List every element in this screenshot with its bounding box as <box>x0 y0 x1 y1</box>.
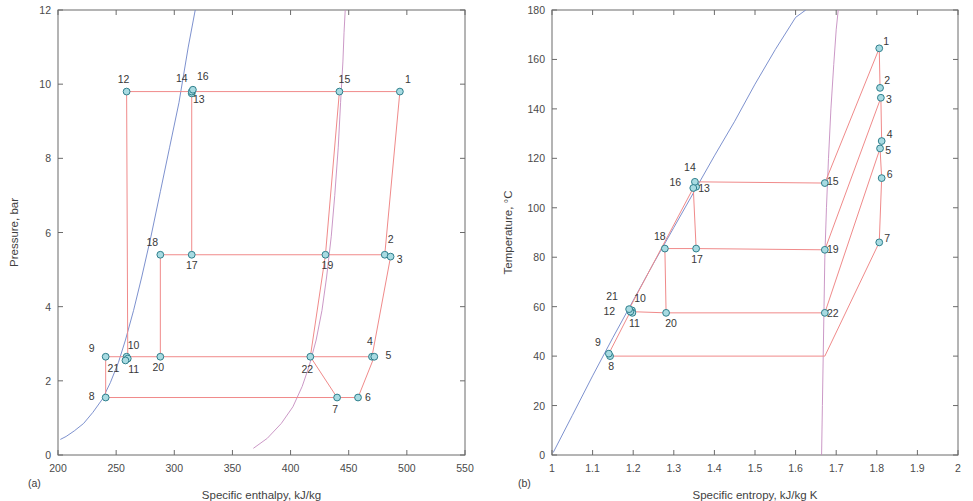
state-label-19: 19 <box>827 243 839 255</box>
series-riser-12-11 <box>127 92 128 359</box>
state-label-15: 15 <box>827 175 839 187</box>
y-tick-label: 8 <box>45 152 51 164</box>
state-point-20[interactable] <box>157 353 164 360</box>
state-point-7[interactable] <box>334 394 341 401</box>
series-riser-1-2 <box>879 48 880 88</box>
x-tick-label: 2 <box>955 462 961 474</box>
state-label-11: 11 <box>128 363 139 375</box>
series-cycle-generator-line <box>695 182 825 183</box>
state-label-22: 22 <box>827 307 839 319</box>
state-point-22[interactable] <box>307 353 314 360</box>
state-point-6[interactable] <box>878 175 885 182</box>
state-label-12: 12 <box>118 73 130 85</box>
state-point-9[interactable] <box>605 350 612 357</box>
series-riser-15-1 <box>825 48 879 183</box>
state-point-7[interactable] <box>876 239 883 246</box>
x-tick-label: 250 <box>107 462 125 474</box>
state-point-9[interactable] <box>102 353 109 360</box>
state-label-20: 20 <box>665 317 677 329</box>
state-label-8: 8 <box>608 360 614 372</box>
state-label-9: 9 <box>595 336 601 348</box>
series-riser-evap-7 <box>825 242 879 356</box>
panel-a-tag: (a) <box>28 477 41 489</box>
state-point-8[interactable] <box>102 394 109 401</box>
state-point-17[interactable] <box>188 251 195 258</box>
chart-panel-b: 11.11.21.31.41.51.61.71.81.9202040608010… <box>490 0 973 501</box>
x-tick-label: 400 <box>282 462 300 474</box>
y-axis-title: Temperature, °C <box>502 191 514 275</box>
x-tick-label: 1.8 <box>869 462 884 474</box>
state-label-11: 11 <box>629 317 640 329</box>
series-cycle-mid-line <box>665 249 825 250</box>
state-label-22: 22 <box>301 363 313 375</box>
y-tick-label: 4 <box>45 301 51 313</box>
state-label-17: 17 <box>691 253 703 265</box>
state-point-3[interactable] <box>387 253 394 260</box>
series-cycle-absorber-line <box>630 312 824 313</box>
state-point-3[interactable] <box>877 94 884 101</box>
y-tick-label: 140 <box>527 103 545 115</box>
y-tick-label: 20 <box>533 400 545 412</box>
plot-frame <box>552 10 958 455</box>
state-label-15: 15 <box>339 73 351 85</box>
series-riser-22-5 <box>825 148 880 312</box>
state-label-20: 20 <box>152 361 164 373</box>
x-tick-label: 200 <box>49 462 67 474</box>
y-tick-label: 120 <box>527 152 545 164</box>
series-group <box>553 10 881 455</box>
state-label-13: 13 <box>698 182 710 194</box>
state-label-14: 14 <box>684 161 696 173</box>
state-point-6[interactable] <box>355 394 362 401</box>
state-point-12[interactable] <box>123 88 130 95</box>
state-label-7: 7 <box>332 403 338 415</box>
y-tick-label: 0 <box>45 449 51 461</box>
y-tick-label: 40 <box>533 350 545 362</box>
x-tick-label: 1.2 <box>626 462 641 474</box>
state-point-19[interactable] <box>322 251 329 258</box>
state-label-21: 21 <box>606 290 618 302</box>
state-point-18[interactable] <box>157 251 164 258</box>
state-point-17[interactable] <box>693 245 700 252</box>
x-tick-label: 1 <box>549 462 555 474</box>
state-point-1[interactable] <box>396 88 403 95</box>
state-point-16[interactable] <box>189 86 196 93</box>
y-tick-label: 100 <box>527 202 545 214</box>
state-point-5[interactable] <box>371 353 378 360</box>
state-point-2[interactable] <box>877 84 884 91</box>
y-tick-label: 6 <box>45 227 51 239</box>
x-tick-label: 1.1 <box>585 462 600 474</box>
state-point-5[interactable] <box>877 145 884 152</box>
series-riser-19-3 <box>825 98 881 250</box>
y-tick-label: 60 <box>533 301 545 313</box>
state-point-16[interactable] <box>690 185 697 192</box>
series-riser-6-7 <box>879 178 881 242</box>
state-point-15[interactable] <box>336 88 343 95</box>
ts-diagram-svg: 11.11.21.31.41.51.61.71.81.9202040608010… <box>490 0 973 501</box>
state-point-4[interactable] <box>878 138 885 145</box>
x-tick-label: 1.3 <box>666 462 681 474</box>
x-tick-label: 1.7 <box>829 462 844 474</box>
x-tick-label: 550 <box>456 462 474 474</box>
y-tick-label: 80 <box>533 251 545 263</box>
state-point-20[interactable] <box>663 309 670 316</box>
state-label-6: 6 <box>887 168 893 180</box>
state-label-2: 2 <box>884 74 890 86</box>
state-point-21[interactable] <box>626 306 633 313</box>
state-label-9: 9 <box>89 342 95 354</box>
state-point-18[interactable] <box>661 245 668 252</box>
state-label-3: 3 <box>886 93 892 105</box>
x-tick-label: 1.5 <box>748 462 763 474</box>
state-label-17: 17 <box>186 259 198 271</box>
x-tick-label: 1.9 <box>910 462 925 474</box>
state-point-21[interactable] <box>122 357 129 364</box>
state-label-4: 4 <box>887 128 893 140</box>
ph-diagram-svg: 200250300350400450500550024681012Specifi… <box>0 0 490 501</box>
x-tick-label: 1.4 <box>707 462 722 474</box>
state-label-1: 1 <box>405 73 411 85</box>
markers-group: 12345678910111213141516171819202122 <box>595 35 893 372</box>
y-tick-label: 160 <box>527 53 545 65</box>
state-point-1[interactable] <box>876 45 883 52</box>
state-label-16: 16 <box>197 70 209 82</box>
state-label-18: 18 <box>146 236 158 248</box>
state-label-6: 6 <box>365 391 371 403</box>
